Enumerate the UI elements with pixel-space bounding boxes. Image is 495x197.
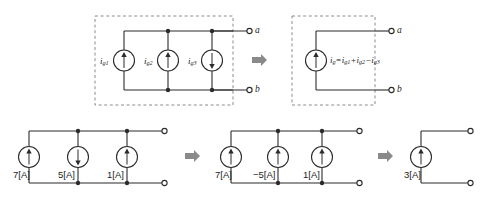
node-dot [76,181,80,185]
bottom-circuit-1 [19,128,168,185]
terminal-b-right [389,87,394,92]
terminal-a-left [247,28,252,33]
terminal-bottom-c2 [357,180,362,185]
circuit-diagram-svg [0,0,495,197]
node-dot [76,129,80,133]
label-value-1a-b: 1[A] [303,170,320,180]
label-value-5a: 5[A] [58,170,75,180]
source-7a [19,147,40,168]
terminal-label-a-left: a [255,26,260,36]
terminal-b-left [247,87,252,92]
source-1a [117,147,138,168]
label-value-7a: 7[A] [13,170,30,180]
terminal-a-right [389,28,394,33]
top-left-circuit [95,16,252,105]
source-7a-b [221,147,242,168]
terminal-top-c3 [468,128,473,133]
source-3a [411,147,432,168]
node-dot [276,129,280,133]
node-dot [320,181,324,185]
transform-arrow-2-icon [378,150,393,162]
source-neg5a [268,147,289,168]
label-source-ig2: ig2 [144,57,153,67]
label-value-3a: 3[A] [404,170,421,180]
terminal-top-c2 [357,128,362,133]
label-source-ig3: ig3 [188,57,197,67]
node-dot [166,29,170,33]
node-dot [320,129,324,133]
transform-arrow-1-icon [185,150,200,162]
label-value-1a: 1[A] [107,170,124,180]
source-ig-equivalent [306,50,327,71]
terminal-label-b-left: b [255,85,260,95]
terminal-bottom-c3 [468,180,473,185]
terminal-bottom-c1 [162,180,167,185]
node-dot [125,129,129,133]
node-dot [276,181,280,185]
source-5a [68,147,89,168]
terminal-label-b-right: b [397,85,402,95]
source-ig1 [114,50,135,71]
terminal-top-c1 [162,128,167,133]
label-source-ig1: ig1 [100,57,109,67]
node-dot [166,88,170,92]
source-ig2 [158,50,179,71]
node-dot [125,181,129,185]
label-value-neg5a: −5[A] [253,170,275,180]
terminal-label-a-right: a [397,26,402,36]
source-ig3 [202,50,223,71]
source-1a-b [312,147,333,168]
figure-canvas: ig1 ig2 ig3 a b ig=ig1+ig2−ig3 a b 7[A] … [0,0,495,197]
equation-ig-combined: ig=ig1+ig2−ig3 [330,56,380,66]
transform-arrow-icon [252,54,267,66]
label-value-7a-b: 7[A] [215,170,232,180]
bottom-circuit-2 [221,128,363,185]
